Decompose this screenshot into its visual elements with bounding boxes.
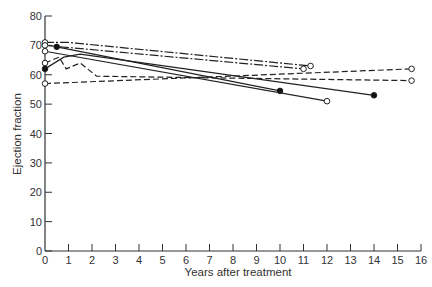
open-circle-marker: [324, 98, 330, 104]
x-tick-label: 2: [89, 254, 95, 266]
open-circle-marker: [409, 66, 415, 72]
open-circle-marker: [42, 81, 48, 87]
x-tick-label: 0: [42, 254, 48, 266]
y-tick-label: 70: [30, 39, 42, 51]
y-tick-label: 20: [30, 186, 42, 198]
open-circle-marker: [409, 78, 415, 84]
y-tick-label: 60: [30, 69, 42, 81]
x-tick-label: 6: [183, 254, 189, 266]
y-tick-label: 40: [30, 128, 42, 140]
y-axis: 01020304050607080: [30, 10, 52, 257]
x-tick-label: 11: [298, 254, 309, 266]
open-circle-marker: [308, 63, 314, 69]
y-tick-label: 50: [30, 98, 42, 110]
x-axis: 012345678910111213141516: [42, 244, 427, 266]
open-circle-marker: [301, 66, 307, 72]
open-circle-marker: [42, 48, 48, 54]
x-tick-label: 4: [136, 254, 142, 266]
x-tick-label: 8: [230, 254, 236, 266]
x-tick-label: 12: [321, 254, 333, 266]
x-tick-label: 14: [368, 254, 380, 266]
x-tick-label: 5: [159, 254, 165, 266]
x-tick-label: 1: [65, 254, 71, 266]
x-tick-label: 7: [206, 254, 212, 266]
series-group: [42, 40, 414, 104]
open-circle-marker: [42, 60, 48, 66]
x-tick-label: 13: [344, 254, 356, 266]
x-tick-label: 9: [253, 254, 259, 266]
y-axis-title: Ejection fraction: [11, 93, 23, 175]
x-tick-label: 16: [415, 254, 427, 266]
x-tick-label: 3: [112, 254, 118, 266]
y-tick-label: 10: [30, 216, 42, 228]
x-axis-title: Years after treatment: [185, 266, 293, 278]
series-line: [42, 48, 330, 104]
y-tick-label: 80: [30, 10, 42, 22]
x-tick-label: 15: [391, 254, 403, 266]
filled-circle-marker: [54, 44, 60, 50]
filled-circle-marker: [371, 93, 377, 99]
open-circle-marker: [42, 43, 48, 49]
line-chart: 01020304050607080 0123456789101112131415…: [0, 0, 432, 287]
x-tick-label: 10: [274, 254, 286, 266]
y-tick-label: 30: [30, 157, 42, 169]
filled-circle-marker: [42, 66, 48, 72]
